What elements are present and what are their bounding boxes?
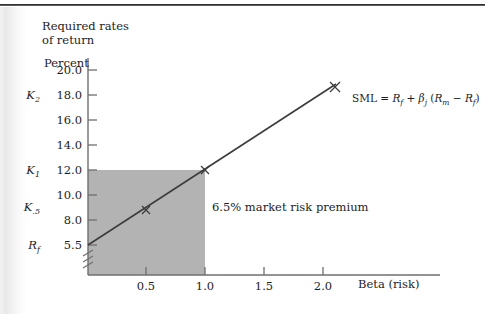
- sml-eq-close: ): [476, 92, 480, 104]
- y-tick-label-14: 14.0: [42, 138, 82, 152]
- y-key-label-k1: K1: [14, 163, 40, 179]
- y-key-label-k-half: K.5: [14, 200, 40, 216]
- y-tick-label-8: 8.0: [42, 213, 82, 227]
- x-tick-label-1-0: 1.0: [185, 279, 225, 293]
- y-tick-label-10: 10.0: [42, 188, 82, 202]
- sml-chart-plot: [0, 0, 485, 314]
- y-key-label-rf: Rf: [14, 238, 40, 254]
- market-risk-premium-annotation: 6.5% market risk premium: [212, 200, 368, 214]
- y-tick-label-5-5: 5.5: [42, 238, 82, 252]
- sml-eq-plus: +: [403, 92, 418, 104]
- x-tick-label-1-5: 1.5: [244, 279, 284, 293]
- y-tick-label-12: 12.0: [42, 163, 82, 177]
- sml-eq-minus: −: [449, 92, 464, 104]
- x-tick-label-2-0: 2.0: [303, 279, 343, 293]
- sml-eq-lead: SML =: [352, 92, 392, 104]
- x-tick-label-0-5: 0.5: [126, 279, 166, 293]
- y-tick-label-18: 18.0: [42, 88, 82, 102]
- chart-title: Required rates of return: [42, 20, 129, 47]
- y-key-label-k2: K2: [14, 88, 40, 104]
- chart-title-line2: of return: [42, 34, 129, 48]
- sml-line: [88, 84, 336, 245]
- y-tick-label-20: 20.0: [42, 63, 82, 77]
- y-tick-label-16: 16.0: [42, 113, 82, 127]
- sml-eq-rf2: R: [465, 92, 473, 104]
- shaded-risk-premium-region: [88, 170, 205, 275]
- sml-equation-annotation: SML = Rf + βj (Rm − Rf): [352, 92, 480, 107]
- x-axis-title: Beta (risk): [358, 277, 419, 291]
- figure-page: Required rates of return Percent Beta (r…: [0, 0, 485, 314]
- chart-title-line1: Required rates: [42, 20, 129, 34]
